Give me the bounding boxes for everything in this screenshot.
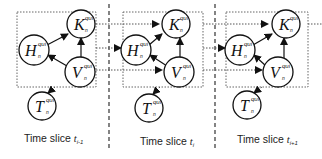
node-k: K qui n bbox=[272, 10, 300, 38]
svg-text:qui: qui bbox=[153, 99, 162, 105]
svg-text:qui: qui bbox=[140, 41, 149, 47]
svg-text:H: H bbox=[230, 42, 244, 59]
edge-h-k bbox=[47, 34, 68, 45]
svg-text:qui: qui bbox=[244, 41, 253, 47]
svg-text:n: n bbox=[46, 109, 49, 115]
svg-text:qui: qui bbox=[180, 15, 189, 21]
slice-2: K qui n H qui n V qui n T qui n Time sli… bbox=[121, 10, 195, 148]
node-k: K qui n bbox=[162, 10, 190, 38]
svg-text:n: n bbox=[140, 53, 143, 59]
svg-text:qui: qui bbox=[38, 41, 47, 47]
edge-box-t bbox=[48, 87, 55, 93]
svg-text:qui: qui bbox=[282, 63, 291, 69]
node-v: V qui n bbox=[263, 57, 293, 87]
svg-text:n: n bbox=[290, 27, 293, 33]
svg-text:qui: qui bbox=[251, 96, 260, 102]
edge-v-h bbox=[254, 55, 266, 66]
svg-text:qui: qui bbox=[84, 63, 93, 69]
node-t: T qui n bbox=[28, 92, 56, 120]
svg-text:H: H bbox=[126, 42, 140, 59]
svg-text:T: T bbox=[35, 98, 45, 115]
node-h: H qui n bbox=[121, 35, 151, 65]
slice-1: K qui n H qui n V qui n T qui n Time sli… bbox=[19, 10, 95, 145]
svg-text:n: n bbox=[84, 75, 87, 81]
svg-text:n: n bbox=[244, 53, 247, 59]
svg-text:n: n bbox=[38, 53, 41, 59]
node-t: T qui n bbox=[233, 91, 261, 119]
edge-box-t bbox=[153, 87, 160, 94]
node-v: V qui n bbox=[164, 57, 194, 87]
node-k: K qui n bbox=[67, 10, 95, 38]
svg-text:qui: qui bbox=[183, 63, 192, 69]
slice-caption: Time slice ti+1 bbox=[237, 133, 298, 146]
edge-v-h bbox=[48, 55, 67, 66]
node-t: T qui n bbox=[135, 94, 163, 122]
svg-text:n: n bbox=[153, 111, 156, 117]
svg-text:n: n bbox=[282, 75, 285, 81]
slice-3: K qui n H qui n V qui n T qui n Time sli… bbox=[225, 10, 300, 146]
svg-text:n: n bbox=[183, 75, 186, 81]
node-h: H qui n bbox=[225, 35, 255, 65]
svg-text:qui: qui bbox=[85, 15, 94, 21]
edge-box-t bbox=[254, 87, 262, 93]
svg-text:T: T bbox=[240, 97, 250, 114]
dbn-diagram: K qui n H qui n V qui n T qui n Time sli… bbox=[0, 0, 322, 159]
svg-text:n: n bbox=[251, 108, 254, 114]
edge-h-k bbox=[253, 34, 272, 45]
edge-v-h bbox=[150, 55, 167, 66]
slice-caption: Time slice ti bbox=[140, 135, 195, 148]
slice-caption: Time slice ti-1 bbox=[24, 132, 83, 145]
svg-text:n: n bbox=[85, 27, 88, 33]
node-v: V qui n bbox=[65, 57, 95, 87]
svg-text:H: H bbox=[24, 42, 38, 59]
svg-text:qui: qui bbox=[290, 15, 299, 21]
svg-text:n: n bbox=[180, 27, 183, 33]
edge-h-k bbox=[149, 34, 162, 45]
svg-text:qui: qui bbox=[46, 97, 55, 103]
node-h: H qui n bbox=[19, 35, 49, 65]
svg-text:T: T bbox=[142, 100, 152, 117]
